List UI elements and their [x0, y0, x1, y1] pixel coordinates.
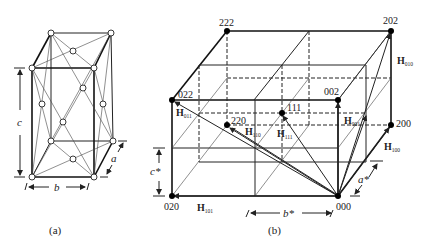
caption-b: (b)	[268, 224, 281, 237]
vector-label-h110: H110	[245, 126, 261, 138]
point-label-222: 222	[219, 17, 234, 28]
axis-label-c-star: c*	[150, 165, 161, 177]
axis-label-a-star: a*	[358, 173, 370, 185]
point-label-000: 000	[336, 201, 351, 212]
figure-canvas: c b a (a)	[0, 0, 424, 249]
caption-a: (a)	[49, 224, 62, 237]
vector-label-h001: H001	[344, 115, 360, 127]
axis-label-a: a	[111, 152, 117, 164]
point-label-111: 111	[287, 102, 301, 113]
vector-label-h111: H111	[277, 128, 293, 140]
point-label-202: 202	[383, 15, 398, 26]
point-label-220: 220	[231, 115, 246, 126]
axis-label-c: c	[17, 116, 22, 128]
point-label-002: 002	[324, 86, 339, 97]
panel-a-unit-cell	[14, 30, 127, 190]
vector-label-h100: H100	[384, 141, 400, 153]
vector-label-h010: H010	[397, 55, 413, 67]
axis-label-b: b	[54, 181, 60, 193]
axis-label-b-star: b*	[283, 207, 295, 219]
vector-label-h101: H101	[197, 202, 213, 214]
point-label-020: 020	[164, 201, 179, 212]
point-label-022: 022	[178, 89, 193, 100]
point-label-200: 200	[396, 118, 411, 129]
vector-label-h011: H011	[176, 107, 192, 119]
